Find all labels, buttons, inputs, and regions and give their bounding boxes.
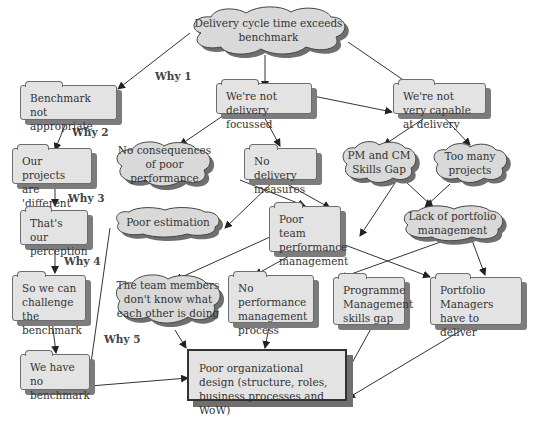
problem-statement-cloud: Delivery cycle time exceeds benchmark [186,5,351,55]
not-delivery-focussed-box: We're not delivery focussed [216,83,312,114]
root-cause-box: Poor organizational design (structure, r… [187,349,347,401]
too-many-projects-cloud: Too many projects [430,142,510,184]
not-capable-box: We're not very capable at delivery [393,83,486,114]
no-consequences-cloud: No consequences of poor performance [112,140,217,188]
team-members-cloud: The team members don't know what each ot… [112,273,224,325]
poor-estimation-cloud: Poor estimation [113,207,223,237]
benchmark-not-appropriate-box: Benchmark not appropriate [20,85,117,120]
no-delivery-measures-box: No delivery measures [244,148,317,180]
lack-portfolio-cloud: Lack of portfolio management [400,205,505,241]
no-perf-process-box: No performance management process [228,275,314,323]
problem-statement-text: Delivery cycle time exceeds benchmark [186,16,351,44]
why-label-5: Why 5 [104,333,141,345]
no-benchmark-box: We have no benchmark [20,354,90,390]
challenge-benchmark-box: So we can challenge the benchmark [12,275,86,321]
portfolio-managers-box: Portfolio Managers have to deliver [430,277,522,325]
why-label-1: Why 1 [155,70,192,82]
prog-mgmt-skills-gap-box: Programme Management skills gap [333,277,405,325]
projects-different-box: Our projects are 'different' [12,148,92,184]
poor-team-performance-box: Poor team performance management [269,206,341,252]
pm-cm-skills-gap-cloud: PM and CM Skills Gap [339,140,419,184]
our-perception-box: That's our perception [20,210,88,245]
